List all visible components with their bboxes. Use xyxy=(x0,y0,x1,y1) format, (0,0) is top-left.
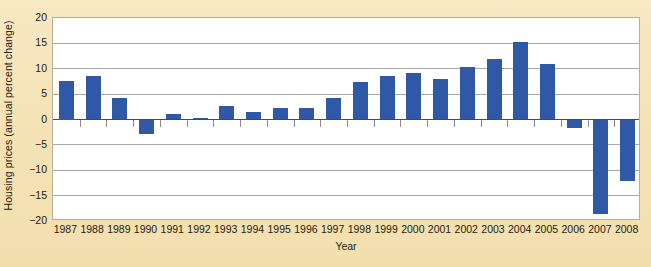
x-tick-label: 2006 xyxy=(558,223,588,235)
x-tick-label: 1996 xyxy=(291,223,321,235)
x-tick-label: 2002 xyxy=(451,223,481,235)
x-tick-label: 2000 xyxy=(398,223,428,235)
bar xyxy=(219,106,234,120)
x-tick-label: 2008 xyxy=(612,223,642,235)
x-tick-mark xyxy=(588,120,589,127)
bar xyxy=(567,120,582,128)
x-tick-mark xyxy=(133,120,134,127)
bar xyxy=(433,79,448,120)
x-axis-title: Year xyxy=(52,240,640,252)
x-tick-mark xyxy=(534,120,535,127)
bar-series xyxy=(53,18,639,219)
bar xyxy=(487,59,502,119)
bar xyxy=(620,120,635,182)
x-tick-label: 1991 xyxy=(157,223,187,235)
bar xyxy=(273,108,288,119)
bar xyxy=(353,82,368,120)
x-axis-tick-labels: 1987198819891990199119921993199419951996… xyxy=(52,223,640,239)
x-tick-mark xyxy=(320,120,321,127)
x-tick-mark xyxy=(507,120,508,127)
x-tick-mark xyxy=(213,120,214,127)
x-tick-mark xyxy=(267,120,268,127)
x-tick-label: 1989 xyxy=(104,223,134,235)
x-tick-label: 1998 xyxy=(344,223,374,235)
x-tick-mark xyxy=(400,120,401,127)
bar xyxy=(593,120,608,214)
housing-prices-bar-chart: Housing prices (annual percent change) 2… xyxy=(0,0,651,267)
bar xyxy=(139,120,154,134)
x-tick-label: 1994 xyxy=(237,223,267,235)
x-tick-label: 2003 xyxy=(478,223,508,235)
bar xyxy=(112,98,127,120)
x-tick-mark xyxy=(240,120,241,127)
x-tick-mark xyxy=(614,120,615,127)
bar xyxy=(380,76,395,119)
bar xyxy=(326,98,341,119)
bar xyxy=(246,112,261,120)
x-tick-label: 1999 xyxy=(371,223,401,235)
x-tick-mark xyxy=(561,120,562,127)
x-tick-mark xyxy=(347,120,348,127)
bar xyxy=(540,64,555,120)
x-tick-label: 2007 xyxy=(585,223,615,235)
bar xyxy=(406,73,421,120)
bar xyxy=(59,81,74,119)
x-tick-mark xyxy=(80,120,81,127)
bar xyxy=(460,67,475,119)
x-tick-label: 2004 xyxy=(505,223,535,235)
x-tick-label: 2001 xyxy=(425,223,455,235)
x-tick-mark xyxy=(427,120,428,127)
bar xyxy=(299,108,314,120)
x-tick-mark xyxy=(160,120,161,127)
x-tick-mark xyxy=(294,120,295,127)
x-tick-mark xyxy=(454,120,455,127)
bar xyxy=(193,118,208,119)
x-tick-label: 2005 xyxy=(531,223,561,235)
x-tick-label: 1988 xyxy=(77,223,107,235)
x-tick-label: 1995 xyxy=(264,223,294,235)
x-tick-label: 1993 xyxy=(211,223,241,235)
y-axis-title: Housing prices (annual percent change) xyxy=(2,0,20,249)
x-tick-label: 1997 xyxy=(318,223,348,235)
bar xyxy=(86,76,101,120)
x-tick-mark xyxy=(481,120,482,127)
x-tick-mark xyxy=(187,120,188,127)
bar xyxy=(166,114,181,119)
x-tick-label: 1992 xyxy=(184,223,214,235)
bar xyxy=(513,42,528,120)
x-tick-label: 1987 xyxy=(50,223,80,235)
plot-area xyxy=(52,17,640,220)
x-tick-mark xyxy=(106,120,107,127)
x-tick-label: 1990 xyxy=(131,223,161,235)
x-tick-mark xyxy=(374,120,375,127)
